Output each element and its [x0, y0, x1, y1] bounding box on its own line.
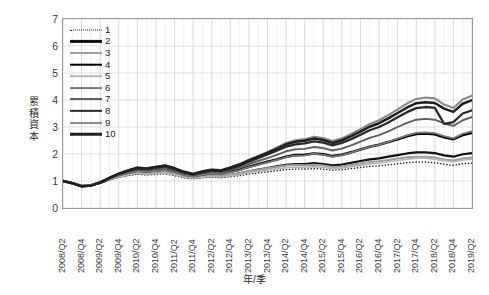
x-tick-label: 2014/Q2: [281, 238, 290, 273]
legend-swatch-icon: [70, 36, 102, 46]
x-tick-label: 2011/Q4: [188, 239, 197, 273]
legend-item[interactable]: 6: [70, 82, 122, 94]
x-tick-label: 2012/Q4: [225, 238, 234, 273]
legend-item[interactable]: 2: [70, 36, 122, 48]
x-tick-label: 2013/Q2: [244, 238, 253, 273]
legend-swatch-icon: [70, 48, 102, 58]
x-axis: 2008/Q22008/Q42009/Q22009/Q42010/Q22010/…: [62, 211, 473, 273]
legend-item[interactable]: 1: [70, 24, 122, 36]
legend-label: 5: [105, 71, 110, 81]
legend-swatch-icon: [70, 25, 102, 35]
x-tick-label: 2010/Q4: [151, 238, 160, 273]
legend-swatch-icon: [70, 71, 102, 81]
x-tick-label: 2009/Q4: [114, 238, 123, 273]
legend-label: 3: [105, 48, 110, 58]
x-tick-label: 2017/Q2: [393, 238, 402, 273]
y-tick-label: 7: [36, 13, 58, 25]
legend-swatch-icon: [70, 106, 102, 116]
x-tick-label: 2009/Q2: [95, 238, 104, 273]
x-tick-label: 2015/Q2: [318, 238, 327, 273]
legend-swatch-icon: [70, 129, 102, 139]
legend-swatch-icon: [70, 118, 102, 128]
legend-item[interactable]: 8: [70, 105, 122, 117]
legend-item[interactable]: 3: [70, 47, 122, 59]
x-tick-label: 2016/Q2: [355, 238, 364, 273]
legend-label: 8: [105, 106, 110, 116]
y-tick-label: 4: [36, 94, 58, 106]
legend-label: 7: [105, 94, 110, 104]
legend-swatch-icon: [70, 60, 102, 70]
y-tick-label: 0: [36, 202, 58, 214]
legend-label: 1: [105, 25, 110, 35]
legend-item[interactable]: 5: [70, 70, 122, 82]
legend-label: 10: [105, 129, 116, 139]
y-tick-label: 5: [36, 67, 58, 79]
legend-label: 4: [105, 60, 110, 70]
x-tick-label: 2012/Q2: [207, 238, 216, 273]
plot-area: [62, 18, 473, 209]
y-tick-label: 3: [36, 121, 58, 133]
legend-label: 6: [105, 83, 110, 93]
x-tick-label: 2013/Q4: [263, 238, 272, 273]
x-tick-label: 2010/Q2: [132, 238, 141, 273]
y-tick-label: 6: [36, 40, 58, 52]
legend-item[interactable]: 9: [70, 117, 122, 129]
x-tick-label: 2018/Q2: [430, 238, 439, 273]
legend-label: 2: [105, 36, 110, 46]
legend: 12345678910: [70, 24, 122, 140]
line-chart: 累積資本 76543210 12345678910 2008/Q22008/Q4…: [0, 0, 489, 295]
y-tick-label: 2: [36, 148, 58, 160]
x-tick-label: 2014/Q4: [300, 238, 309, 273]
y-tick-label: 1: [36, 175, 58, 187]
x-tick-label: 2015/Q4: [337, 238, 346, 273]
x-tick-label: 2016/Q4: [374, 238, 383, 273]
x-tick-label: 2008/Q2: [58, 238, 67, 273]
y-axis: 76543210: [34, 0, 58, 295]
legend-item[interactable]: 7: [70, 94, 122, 106]
legend-swatch-icon: [70, 94, 102, 104]
x-tick-label: 2018/Q4: [448, 238, 457, 273]
series-lines: [63, 19, 472, 208]
x-tick-label: 2011/Q2: [170, 239, 179, 273]
x-tick-label: 2017/Q4: [411, 238, 420, 273]
legend-item[interactable]: 10: [70, 128, 122, 140]
legend-label: 9: [105, 118, 110, 128]
legend-swatch-icon: [70, 83, 102, 93]
legend-item[interactable]: 4: [70, 59, 122, 71]
x-tick-label: 2008/Q4: [77, 238, 86, 273]
x-tick-label: 2019/Q2: [467, 238, 476, 273]
x-axis-title: 年/季: [243, 271, 266, 286]
